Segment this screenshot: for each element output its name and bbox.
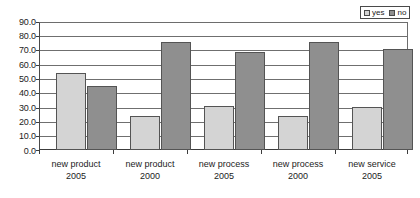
x-tick-mark	[261, 150, 262, 154]
legend: yes no	[360, 6, 410, 19]
x-axis-ticks	[39, 150, 408, 154]
y-tick-label: 80.0	[0, 32, 36, 41]
y-tick-label: 20.0	[0, 118, 36, 127]
y-tick-label: 10.0	[0, 132, 36, 141]
y-axis: 90.0 80.0 70.0 60.0 50.0 40.0 30.0 20.0 …	[0, 0, 36, 198]
bar-yes[interactable]	[352, 107, 382, 150]
bar-no[interactable]	[383, 49, 413, 150]
legend-label: no	[397, 9, 406, 17]
legend-swatch-icon	[389, 10, 395, 16]
x-cat-line-1: new product	[39, 158, 113, 170]
x-cat-label-new-process-2005: new process 2005	[187, 158, 261, 182]
bar-yes[interactable]	[130, 116, 160, 150]
x-cat-line-2: 2000	[113, 170, 187, 182]
bar-yes[interactable]	[204, 106, 234, 150]
x-cat-line-2: 2005	[39, 170, 113, 182]
x-tick-mark	[39, 150, 40, 154]
bar-yes[interactable]	[56, 73, 86, 150]
legend-entry-yes[interactable]: yes	[364, 9, 384, 17]
y-tick-label: 50.0	[0, 75, 36, 84]
x-cat-line-1: new product	[113, 158, 187, 170]
bar-group-new-product-2005	[56, 22, 117, 150]
bar-chart: 90.0 80.0 70.0 60.0 50.0 40.0 30.0 20.0 …	[0, 0, 420, 198]
bar-no[interactable]	[309, 42, 339, 150]
y-tick-label: 0.0	[0, 147, 36, 156]
x-axis: new product 2005 new product 2000 new pr…	[39, 158, 408, 190]
bar-group-new-service-2005	[352, 22, 413, 150]
bar-group-new-process-2005	[204, 22, 265, 150]
x-cat-line-1: new service	[335, 158, 409, 170]
x-tick-mark	[187, 150, 188, 154]
y-tick-label: 40.0	[0, 89, 36, 98]
x-cat-line-1: new process	[187, 158, 261, 170]
x-cat-line-1: new process	[261, 158, 335, 170]
bar-no[interactable]	[161, 42, 191, 150]
y-tick-label: 90.0	[0, 18, 36, 27]
x-cat-label-new-service-2005: new service 2005	[335, 158, 409, 182]
x-cat-label-new-product-2000: new product 2000	[113, 158, 187, 182]
bar-no[interactable]	[87, 86, 117, 150]
x-cat-line-2: 2005	[187, 170, 261, 182]
bar-group-new-process-2000	[278, 22, 339, 150]
bar-group-new-product-2000	[130, 22, 191, 150]
legend-entry-no[interactable]: no	[389, 9, 406, 17]
x-tick-mark	[113, 150, 114, 154]
x-cat-line-2: 2000	[261, 170, 335, 182]
legend-swatch-icon	[364, 10, 370, 16]
x-tick-mark	[407, 150, 408, 154]
x-cat-label-new-process-2000: new process 2000	[261, 158, 335, 182]
legend-label: yes	[372, 9, 384, 17]
x-cat-line-2: 2005	[335, 170, 409, 182]
y-tick-label: 60.0	[0, 61, 36, 70]
x-cat-label-new-product-2005: new product 2005	[39, 158, 113, 182]
y-tick-label: 30.0	[0, 104, 36, 113]
bar-no[interactable]	[235, 52, 265, 150]
y-tick-label: 70.0	[0, 46, 36, 55]
bar-yes[interactable]	[278, 116, 308, 150]
x-tick-mark	[335, 150, 336, 154]
bars-layer	[39, 22, 408, 150]
